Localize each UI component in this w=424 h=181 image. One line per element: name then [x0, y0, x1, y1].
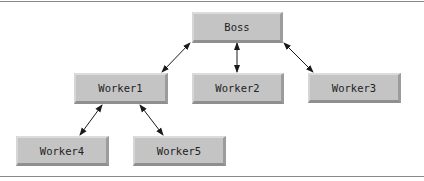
edge-worker1-worker4	[80, 105, 102, 135]
edge-worker1-worker5	[140, 105, 163, 135]
node-worker3: Worker3	[308, 73, 401, 103]
node-worker4: Worker4	[16, 136, 109, 166]
edge-boss-worker1	[162, 43, 190, 72]
node-worker2: Worker2	[192, 73, 284, 104]
node-boss: Boss	[192, 12, 283, 43]
edge-boss-worker3	[284, 43, 313, 72]
node-worker1: Worker1	[74, 73, 168, 104]
node-worker5: Worker5	[133, 136, 226, 166]
